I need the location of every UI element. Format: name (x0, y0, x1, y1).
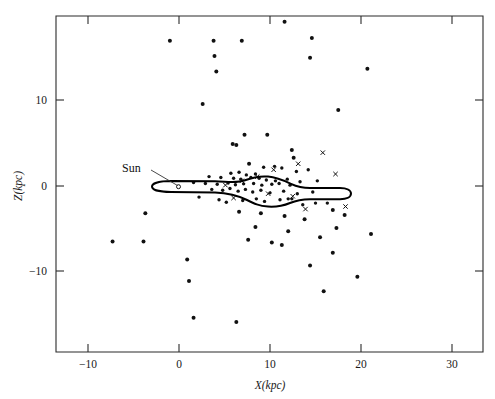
data-point-dot (232, 177, 235, 180)
data-point-dot (252, 182, 255, 185)
data-point-dot (207, 175, 210, 178)
x-axis-title: X(kpc) (254, 379, 286, 392)
data-point-dot (251, 190, 254, 193)
data-point-dot (187, 279, 191, 283)
data-point-dot (277, 182, 280, 185)
data-point-dot (236, 189, 239, 192)
data-point-dot (331, 208, 335, 212)
data-point-dot (216, 183, 219, 186)
data-point-dot (295, 170, 298, 173)
data-point-dot (253, 225, 257, 229)
data-point-dot (210, 188, 213, 191)
scatter-plot: −10 0 10 20 30 10 0 −10 X(kpc) Z(kpc) Su… (0, 0, 495, 399)
data-point-dot (274, 179, 277, 182)
data-point-dot (310, 36, 314, 40)
data-point-dot (234, 320, 238, 324)
data-point-dot (229, 171, 232, 174)
data-point-dot (326, 201, 329, 204)
data-point-dot (234, 183, 237, 186)
data-point-dot (143, 211, 147, 215)
data-point-dot (308, 264, 312, 268)
data-point-dot (336, 108, 340, 112)
data-point-dot (212, 39, 216, 43)
data-point-dot (292, 156, 296, 160)
data-point-dot (280, 243, 284, 247)
data-point-dot (260, 183, 263, 186)
data-point-cross (303, 207, 307, 211)
x-tick-label: 0 (176, 358, 182, 370)
data-point-dot (214, 69, 218, 73)
y-tick-label: 0 (41, 180, 47, 192)
data-point-dot (263, 200, 266, 203)
data-point-dot (343, 213, 347, 217)
data-point-dot (318, 235, 322, 239)
data-point-dot (334, 226, 338, 230)
data-point-dot (270, 240, 274, 244)
plot-border (56, 16, 483, 352)
x-tick-labels: −10 0 10 20 30 (79, 358, 458, 370)
data-point-cross (321, 150, 325, 154)
data-point-cross (271, 168, 275, 172)
data-point-dot (369, 232, 373, 236)
data-point-cross (333, 172, 337, 176)
data-point-dot (280, 166, 283, 169)
data-point-dot (197, 195, 200, 198)
data-point-dot (247, 162, 251, 166)
data-point-dot (265, 178, 268, 181)
data-point-dot (245, 173, 248, 176)
data-point-dot (307, 168, 310, 171)
data-point-dot (331, 251, 335, 255)
data-point-dot (311, 190, 314, 193)
data-point-dot (185, 258, 189, 262)
data-point-dot (259, 211, 263, 215)
data-point-dot (265, 133, 269, 137)
data-point-dot (303, 217, 307, 221)
data-point-cross (223, 183, 227, 187)
data-point-dot (201, 102, 205, 106)
data-point-dot (301, 203, 304, 206)
y-tick-labels: 10 0 −10 (29, 94, 47, 277)
data-point-dot (168, 39, 172, 43)
data-point-dot (365, 67, 369, 71)
data-point-dot (298, 180, 301, 183)
data-point-dot (244, 188, 247, 191)
x-tick-label: 20 (355, 358, 367, 370)
data-point-dot (278, 198, 281, 201)
data-point-dot (225, 201, 228, 204)
y-axis-title: Z(kpc) (12, 171, 25, 201)
data-point-dot (246, 238, 250, 242)
y-tick-label: 10 (36, 94, 48, 106)
data-point-dot (237, 171, 240, 174)
data-point-dot (355, 275, 359, 279)
x-tick-label: 30 (446, 358, 458, 370)
data-point-dot (219, 176, 222, 179)
data-point-dot (255, 197, 258, 200)
y-axis-ticks (56, 100, 483, 271)
data-point-dot (234, 143, 238, 147)
x-tick-label: −10 (79, 358, 97, 370)
data-point-cross (296, 162, 300, 166)
data-point-dot (228, 187, 231, 190)
x-axis-ticks (88, 16, 452, 352)
data-point-dot (217, 198, 220, 201)
data-point-dot (243, 133, 247, 137)
data-point-dot (212, 54, 216, 58)
data-point-dot (240, 39, 244, 43)
data-point-dot (314, 201, 317, 204)
sun-label: Sun (122, 161, 141, 175)
data-point-dot (142, 240, 146, 244)
data-point-dot (282, 189, 285, 192)
data-point-dot (192, 316, 196, 320)
data-point-dot (221, 189, 224, 192)
data-point-dot (237, 210, 241, 214)
data-point-dot (316, 179, 319, 182)
data-point-dot (296, 192, 299, 195)
data-point-dot (286, 229, 290, 233)
data-point-dot (283, 20, 287, 24)
data-point-cross (343, 204, 347, 208)
data-point-dot (111, 240, 115, 244)
data-point-dot (308, 56, 312, 60)
axes-frame (56, 16, 483, 352)
data-point-dot (270, 183, 273, 186)
figure-container: −10 0 10 20 30 10 0 −10 X(kpc) Z(kpc) Su… (0, 0, 495, 399)
